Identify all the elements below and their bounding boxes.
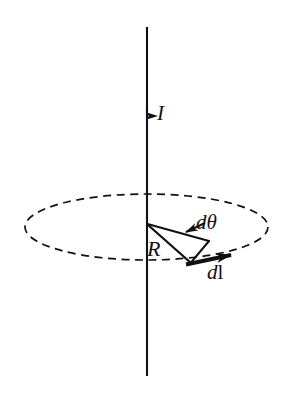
dl-prefix: d (207, 260, 218, 284)
radius-label-R: R (147, 238, 160, 260)
dl-vector-symbol: l (218, 260, 224, 284)
current-label-I: I (157, 103, 164, 124)
physics-diagram-figure: I R dθ dl (0, 0, 287, 396)
angle-element-label-dtheta: dθ (196, 212, 217, 233)
diagram-canvas (0, 0, 287, 396)
length-element-label-dl: dl (207, 262, 223, 283)
